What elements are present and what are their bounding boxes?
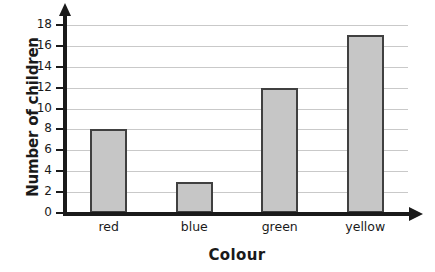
bar — [90, 129, 127, 213]
y-axis-tick — [56, 170, 64, 172]
x-axis-title: Colour — [66, 246, 408, 264]
bar — [176, 182, 213, 213]
x-axis-arrow-icon — [409, 207, 423, 221]
bar — [261, 88, 298, 213]
y-axis-tick — [56, 45, 64, 47]
y-axis-tick — [56, 212, 64, 214]
y-axis-tick — [56, 66, 64, 68]
x-axis-category-label: yellow — [323, 219, 409, 234]
x-axis-line — [63, 212, 411, 216]
bar — [347, 35, 384, 213]
y-axis-title: Number of children — [24, 22, 42, 212]
plot-area — [66, 25, 408, 213]
y-axis-tick — [56, 128, 64, 130]
y-axis-tick — [56, 149, 64, 151]
y-axis-arrow-icon — [59, 3, 71, 16]
bar-chart: 024681012141618 redbluegreenyellow Numbe… — [0, 0, 435, 272]
y-axis-tick — [56, 108, 64, 110]
y-axis-tick — [56, 24, 64, 26]
y-axis-tick — [56, 191, 64, 193]
x-axis-category-label: green — [237, 219, 323, 234]
x-axis-category-label: blue — [152, 219, 238, 234]
x-axis-category-label: red — [66, 219, 152, 234]
y-axis-tick — [56, 87, 64, 89]
